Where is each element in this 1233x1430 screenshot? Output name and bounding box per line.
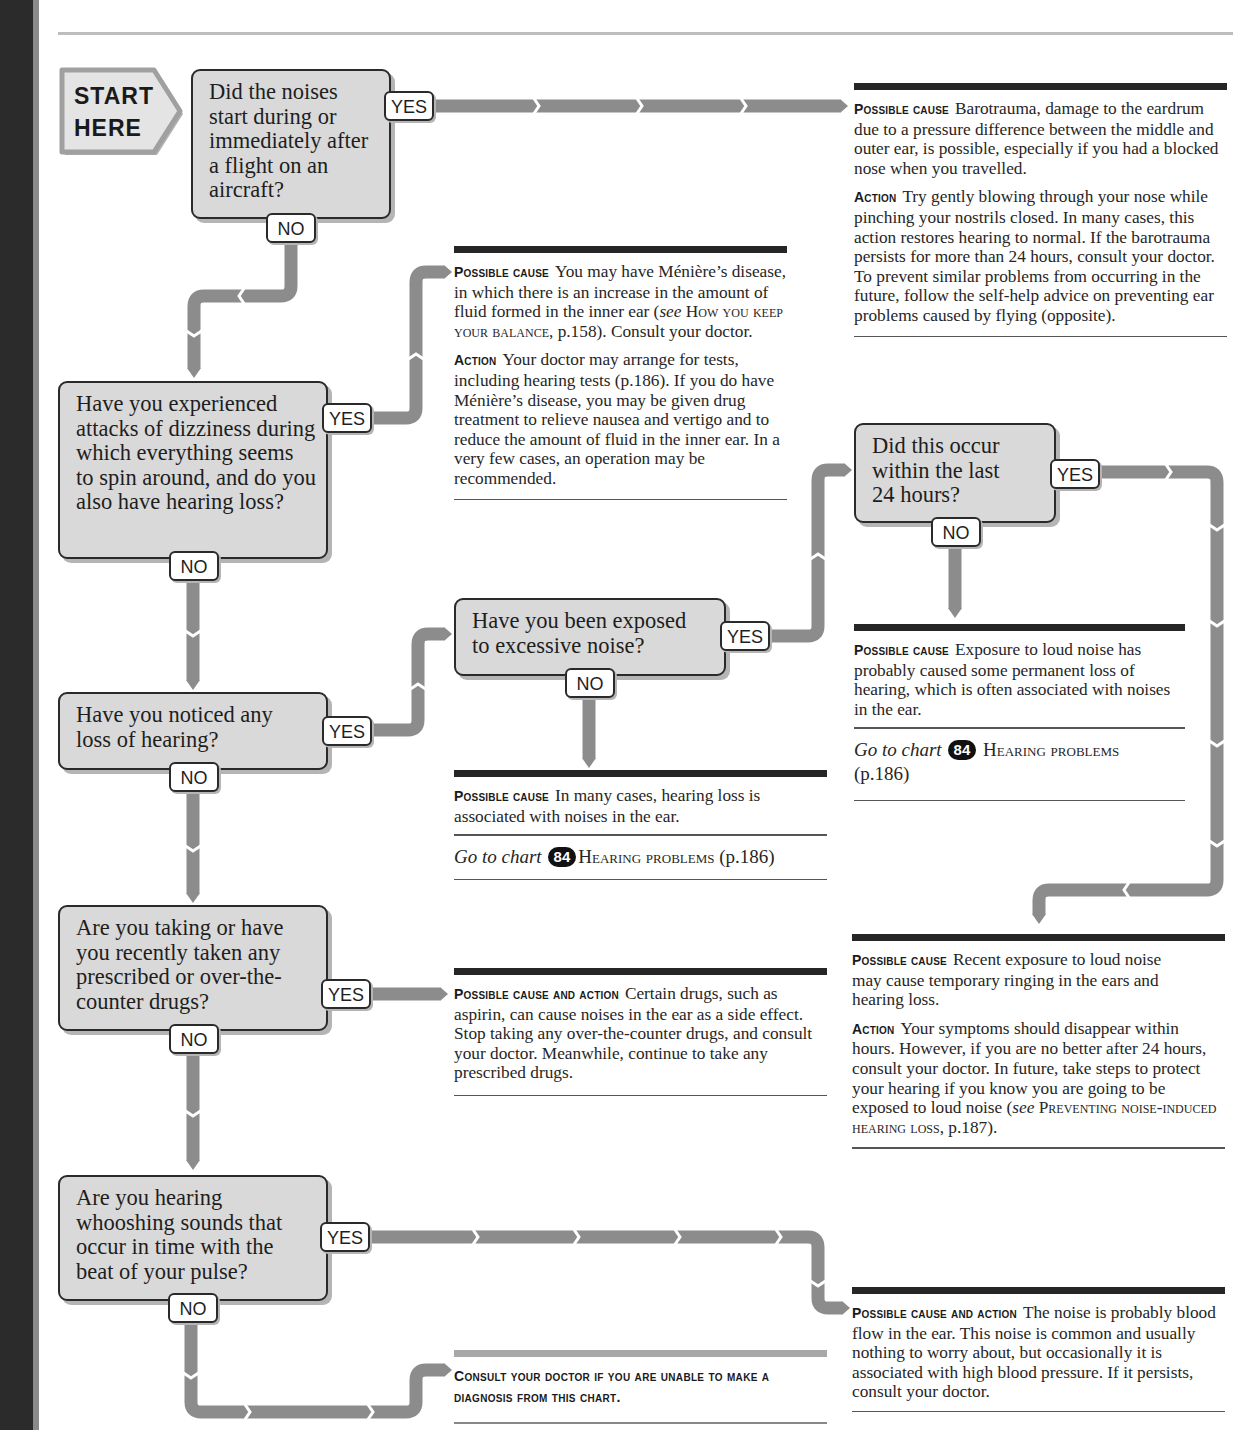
panel-rule <box>852 1287 1225 1294</box>
q5-no-button[interactable]: NO <box>931 517 981 547</box>
outcome-menieres: Possible causeYou may have Ménière’s dis… <box>454 246 787 500</box>
panel-divider <box>454 834 827 836</box>
panel-rule <box>854 624 1185 631</box>
chart-number-badge: 84 <box>948 740 977 760</box>
action-text: Your doctor may arrange for tests, inclu… <box>454 350 780 488</box>
question-text: Have you noticed any loss of hearing? <box>76 703 276 752</box>
q4-yes-button[interactable]: YES <box>720 621 770 651</box>
panel-rule <box>854 83 1227 90</box>
q1-no-button[interactable]: NO <box>266 213 316 243</box>
cause-label: Possible cause <box>854 101 949 117</box>
outcome-hearing-loss: Possible causeIn many cases, hearing los… <box>454 770 827 880</box>
q2-no-button[interactable]: NO <box>169 551 219 581</box>
cause-action-label: Possible cause and action <box>852 1305 1017 1321</box>
panel-end-rule <box>852 1411 1225 1413</box>
question-drugs: Are you taking or have you recently take… <box>58 905 328 1031</box>
question-last-24-hours: Did this occur within the last 24 hours? <box>854 423 1056 523</box>
outcome-permanent-loss: Possible causeExposure to loud noise has… <box>854 624 1185 801</box>
goto-text: Go to chart <box>454 846 542 867</box>
action-text: Try gently blowing through your nose whi… <box>854 187 1215 325</box>
q2-yes-button[interactable]: YES <box>322 403 372 433</box>
question-text: Are you hearing whooshing sounds that oc… <box>76 1186 298 1284</box>
q7-no-button[interactable]: NO <box>168 1293 218 1323</box>
cause-action-label: Possible cause and action <box>454 986 619 1002</box>
see-ref: see <box>1012 1098 1034 1117</box>
panel-rule <box>454 770 827 777</box>
question-excessive-noise: Have you been exposed to excessive noise… <box>454 598 726 676</box>
question-text: Are you taking or have you recently take… <box>76 916 298 1014</box>
panel-end-rule <box>854 336 1227 338</box>
action-text-end: , p.187). <box>940 1118 998 1137</box>
action-label: Action <box>852 1021 894 1037</box>
cause-label: Possible cause <box>852 952 947 968</box>
goto-chart-link[interactable]: Go to chart84Hearing problems (p.186) <box>454 845 827 869</box>
cause-label: Possible cause <box>854 642 949 658</box>
q3-yes-button[interactable]: YES <box>322 716 372 746</box>
question-dizziness: Have you experienced attacks of dizzines… <box>58 381 328 559</box>
question-whooshing: Are you hearing whooshing sounds that oc… <box>58 1175 328 1301</box>
question-text: Did the noises start during or immediate… <box>209 80 379 203</box>
start-here-marker: START HERE <box>58 66 184 156</box>
panel-end-rule <box>454 499 787 501</box>
goto-title: Hearing problems <box>578 846 714 867</box>
question-hearing-loss: Have you noticed any loss of hearing? <box>58 692 328 770</box>
action-label: Action <box>854 189 896 205</box>
cause-label: Possible cause <box>454 264 549 280</box>
q5-yes-button[interactable]: YES <box>1050 459 1100 489</box>
see-ref: see <box>659 302 681 321</box>
q4-no-button[interactable]: NO <box>565 668 615 698</box>
panel-rule <box>852 934 1225 941</box>
goto-page: (p.186) <box>719 846 774 867</box>
goto-text: Go to chart <box>854 739 942 760</box>
cause-label: Possible cause <box>454 788 549 804</box>
goto-title: Hearing problems <box>983 739 1119 760</box>
cause-text-end: , p.158). Consult your doctor. <box>549 322 753 341</box>
question-text: Did this occur within the last 24 hours? <box>872 434 1024 508</box>
panel-rule <box>454 246 787 253</box>
action-label: Action <box>454 352 496 368</box>
panel-end-rule <box>852 1147 1225 1149</box>
consult-doctor-note: Consult your doctor if you are unable to… <box>454 1350 827 1424</box>
panel-end-rule <box>454 1422 827 1424</box>
chart-number-badge: 84 <box>548 847 577 867</box>
q1-yes-button[interactable]: YES <box>384 91 434 121</box>
goto-page: (p.186) <box>854 763 909 784</box>
panel-divider <box>854 727 1185 729</box>
goto-chart-link[interactable]: Go to chart84 Hearing problems(p.186) <box>854 738 1185 786</box>
question-flight: Did the noises start during or immediate… <box>191 69 391 219</box>
outcome-drugs: Possible cause and actionCertain drugs, … <box>454 968 827 1096</box>
q7-yes-button[interactable]: YES <box>320 1222 370 1252</box>
panel-end-rule <box>854 800 1185 802</box>
outcome-barotrauma: Possible causeBarotrauma, damage to the … <box>854 83 1227 337</box>
q3-no-button[interactable]: NO <box>169 762 219 792</box>
start-here-label: START HERE <box>74 80 154 144</box>
q6-no-button[interactable]: NO <box>169 1024 219 1054</box>
panel-end-rule <box>454 879 827 881</box>
consult-text: Consult your doctor if you are unable to… <box>454 1366 814 1408</box>
outcome-blood-flow: Possible cause and actionThe noise is pr… <box>852 1287 1225 1412</box>
panel-rule <box>454 1350 827 1357</box>
outcome-recent-noise: Possible causeRecent exposure to loud no… <box>852 934 1225 1149</box>
panel-rule <box>454 968 827 975</box>
question-text: Have you experienced attacks of dizzines… <box>76 392 316 515</box>
panel-end-rule <box>454 1095 827 1097</box>
q6-yes-button[interactable]: YES <box>321 979 371 1009</box>
question-text: Have you been exposed to excessive noise… <box>472 609 694 658</box>
